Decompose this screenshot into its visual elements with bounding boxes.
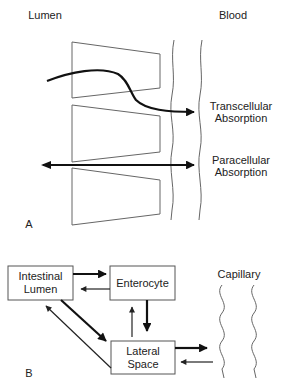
intestinal-lumen-label-1: Intestinal — [18, 270, 62, 282]
enterocyte-label: Enterocyte — [116, 277, 169, 289]
panel-a: Lumen Blood Transcellular Absorption Par… — [25, 9, 272, 230]
transcellular-label-2: Absorption — [215, 112, 268, 124]
panel-a-label: A — [25, 218, 33, 230]
membrane-wave-right — [199, 40, 202, 220]
panel-b: Intestinal Lumen Enterocyte Lateral Spac… — [8, 266, 261, 379]
transcellular-label-1: Transcellular — [210, 100, 273, 112]
cell-middle — [72, 105, 160, 162]
lateral-space-label-2: Space — [127, 358, 158, 370]
capillary-wall-left — [220, 285, 225, 378]
paracellular-arrowhead-left — [41, 161, 51, 169]
lumen-to-lateral-arrow — [61, 300, 106, 341]
panel-b-label: B — [25, 367, 32, 379]
lateral-space-label-1: Lateral — [126, 345, 160, 357]
membrane-wave-left — [171, 40, 174, 220]
transcellular-arrow — [47, 70, 194, 112]
absorption-diagram: Lumen Blood Transcellular Absorption Par… — [0, 0, 282, 383]
capillary-wall-right — [252, 285, 257, 378]
intestinal-lumen-label-2: Lumen — [24, 283, 58, 295]
blood-heading: Blood — [219, 9, 247, 21]
cell-bottom — [72, 168, 160, 225]
paracellular-label-1: Paracellular — [212, 154, 270, 166]
paracellular-label-2: Absorption — [215, 166, 268, 178]
capillary-label: Capillary — [218, 268, 261, 280]
lumen-heading: Lumen — [28, 9, 62, 21]
